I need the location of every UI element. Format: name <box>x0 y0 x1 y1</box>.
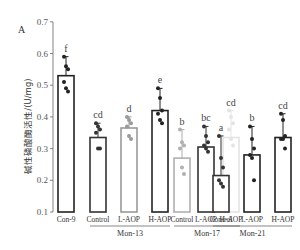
significance-letter: bc <box>201 112 211 123</box>
y-tick-label: 0.1 <box>37 207 48 217</box>
data-point <box>182 143 186 147</box>
group-label: Mon-21 <box>240 229 266 238</box>
significance-letter: d <box>127 103 132 114</box>
data-point <box>204 134 208 138</box>
x-tick-label: Con-9 <box>57 215 76 224</box>
data-point <box>160 121 164 125</box>
y-tick-label: 0.4 <box>37 112 49 122</box>
significance-letter: b <box>250 112 255 123</box>
data-point <box>252 178 256 182</box>
data-point <box>66 90 70 94</box>
data-point <box>129 121 133 125</box>
data-point <box>231 121 235 125</box>
group-label: Mon-13 <box>117 229 143 238</box>
y-tick-label: 0.2 <box>37 175 48 185</box>
data-point <box>66 67 70 71</box>
data-point <box>281 118 285 122</box>
x-tick-label: Control <box>171 215 194 224</box>
data-point <box>182 172 186 176</box>
significance-letter: b <box>180 116 185 127</box>
data-point <box>94 131 98 135</box>
data-point <box>202 124 206 128</box>
data-point <box>206 140 210 144</box>
y-tick-label: 0.7 <box>37 17 49 27</box>
data-point <box>62 80 66 84</box>
data-point <box>283 147 287 151</box>
data-point <box>227 128 231 132</box>
data-point <box>248 124 252 128</box>
bar <box>244 155 260 212</box>
significance-letter: f <box>64 43 68 54</box>
bar <box>152 111 168 212</box>
bar <box>198 147 214 212</box>
data-point <box>252 147 256 151</box>
x-tick-label: Control <box>210 215 233 224</box>
x-tick-label: H-AOP <box>272 215 295 224</box>
data-point <box>229 115 233 119</box>
y-axis-label: 碱性磷酸酶活性/(U/mg) <box>21 71 33 181</box>
data-point <box>250 137 254 141</box>
data-point <box>178 128 182 132</box>
y-tick-label: 0.6 <box>37 49 49 59</box>
significance-letter: cd <box>226 97 235 108</box>
bar <box>213 176 229 212</box>
data-point <box>156 112 160 116</box>
bar <box>121 128 137 212</box>
plot-area: 0.10.20.30.40.50.60.7fCon-9cdControldL-A… <box>0 0 300 250</box>
significance-letter: a <box>219 122 224 133</box>
data-point <box>156 86 160 90</box>
bar <box>275 138 291 212</box>
data-point <box>231 143 235 147</box>
data-point <box>229 137 233 141</box>
data-point <box>125 124 129 128</box>
x-tick-label: L-AOP <box>241 215 263 224</box>
y-tick-label: 0.3 <box>37 144 49 154</box>
data-point <box>206 150 210 154</box>
bar <box>58 76 74 212</box>
y-tick-label: 0.5 <box>37 80 49 90</box>
data-point <box>158 96 162 100</box>
data-point <box>281 137 285 141</box>
data-point <box>219 156 223 160</box>
x-tick-label: L-AOP <box>118 215 140 224</box>
bar-chart: A 碱性磷酸酶活性/(U/mg) 0.10.20.30.40.50.60.7fC… <box>0 0 300 250</box>
data-point <box>180 166 184 170</box>
data-point <box>217 134 221 138</box>
significance-letter: cd <box>93 109 102 120</box>
data-point <box>221 166 225 170</box>
data-point <box>279 112 283 116</box>
data-point <box>250 156 254 160</box>
data-point <box>98 147 102 151</box>
data-point <box>160 109 164 113</box>
data-point <box>129 137 133 141</box>
x-tick-label: Control <box>87 215 110 224</box>
group-label: Mon-17 <box>194 229 220 238</box>
data-point <box>178 147 182 151</box>
data-point <box>227 109 231 113</box>
data-point <box>98 128 102 132</box>
panel-label: A <box>18 24 25 35</box>
x-tick-label: H-AOP <box>149 215 172 224</box>
significance-letter: cd <box>278 100 287 111</box>
significance-letter: e <box>158 74 163 85</box>
data-point <box>221 185 225 189</box>
data-point <box>62 55 66 59</box>
